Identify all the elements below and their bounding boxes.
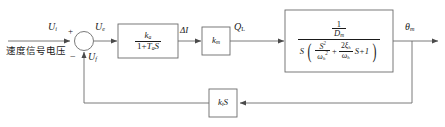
feedback-signal-label: Uf <box>88 52 97 63</box>
input-signal-label: Ui <box>48 22 57 33</box>
minus-sign: − <box>70 52 76 62</box>
output-angle-label: θm <box>405 22 414 33</box>
control-block-diagram: Ui 速度信号电压 + − Uf Ue ka 1+TaS ΔI km QL 1 <box>0 0 445 127</box>
plus-sign: + <box>68 27 73 36</box>
amplifier-denominator: 1+TaS <box>135 41 161 52</box>
error-signal-label: Ue <box>95 22 105 33</box>
plant-denominator: S ( S2 ωh2 + 2ξh ωh S+1 ) <box>298 39 381 63</box>
plant-numerator: 1 Dm <box>298 20 381 39</box>
delta-current-label: ΔI <box>180 26 188 35</box>
input-caption: 速度信号电压 <box>6 46 66 56</box>
amplifier-transfer-function: ka 1+TaS <box>118 24 178 58</box>
gain-block-label: km <box>202 27 230 55</box>
amplifier-numerator: ka <box>135 31 161 41</box>
plant-transfer-function: 1 Dm S ( S2 ωh2 + 2ξh ωh S+1 ) <box>285 10 393 72</box>
flow-output-label: QL <box>234 22 245 33</box>
feedback-block-label: ktS <box>209 89 237 117</box>
